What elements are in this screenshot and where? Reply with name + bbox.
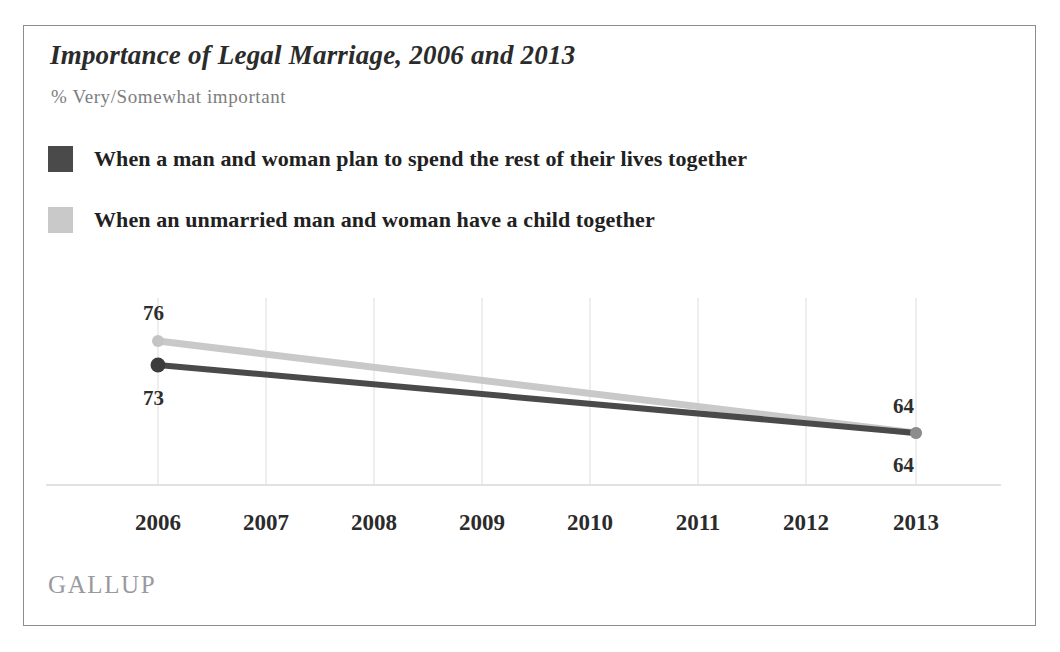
- data-label-unmarried-2013: 64: [893, 394, 914, 419]
- figure-frame: Importance of Legal Marriage, 2006 and 2…: [23, 25, 1036, 626]
- data-label-plan-2013: 64: [893, 453, 914, 478]
- x-tick-2010: 2010: [567, 510, 613, 536]
- line-chart-svg: [24, 26, 1037, 627]
- x-tick-2011: 2011: [676, 510, 721, 536]
- series-marker-plan-2006: [151, 358, 166, 373]
- gridlines: [158, 298, 916, 485]
- x-tick-2013: 2013: [893, 510, 939, 536]
- series-marker-plan-2013: [910, 427, 922, 439]
- x-tick-2006: 2006: [135, 510, 181, 536]
- x-tick-2009: 2009: [459, 510, 505, 536]
- series-line-unmarried-have-child: [158, 341, 916, 433]
- x-tick-2007: 2007: [243, 510, 289, 536]
- series-line-plan-to-spend-lives-together: [158, 365, 916, 433]
- x-tick-2008: 2008: [351, 510, 397, 536]
- gallup-logo: GALLUP: [48, 571, 156, 599]
- data-label-plan-2006: 73: [143, 386, 164, 411]
- series-marker-unmarried-2006: [152, 335, 164, 347]
- x-tick-2012: 2012: [783, 510, 829, 536]
- data-label-unmarried-2006: 76: [143, 301, 164, 326]
- plot-area: 76 73 64 64 2006 2007 2008 2009 2010 201…: [24, 26, 1037, 627]
